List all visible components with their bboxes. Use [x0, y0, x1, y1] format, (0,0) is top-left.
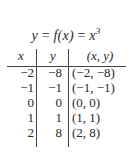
table-row: 1 1 (1, 1) — [10, 110, 128, 125]
table-row: −2 −8 (−2, −8) — [10, 65, 128, 80]
title-equals-2: = — [74, 28, 90, 43]
header-y: y — [40, 47, 66, 64]
cell-y: −8 — [40, 65, 62, 80]
table-header-row: x y (x, y) — [10, 47, 128, 65]
header-pair: (x, y) — [72, 47, 128, 64]
title-equals-1: = — [38, 28, 54, 43]
cell-y: 0 — [40, 95, 62, 110]
cell-y: 8 — [40, 125, 62, 140]
cell-x: 0 — [10, 95, 34, 110]
cell-x: 1 — [10, 110, 34, 125]
cell-y: 1 — [40, 110, 62, 125]
cell-x: −2 — [10, 65, 34, 80]
cell-x: 2 — [10, 125, 34, 140]
title-function: f(x) — [54, 28, 74, 43]
table-row: 0 0 (0, 0) — [10, 95, 128, 110]
cell-pair: (0, 0) — [72, 95, 132, 110]
values-table: x y (x, y) −2 −8 (−2, −8) −1 −1 (−1, −1)… — [10, 47, 128, 140]
function-title: y = f(x) = x3 — [0, 26, 132, 44]
cell-pair: (−2, −8) — [72, 65, 132, 80]
table-row: −1 −1 (−1, −1) — [10, 80, 128, 95]
title-exponent: 3 — [96, 26, 101, 36]
header-x: x — [10, 47, 32, 64]
cell-pair: (2, 8) — [72, 125, 132, 140]
cell-pair: (−1, −1) — [72, 80, 132, 95]
cell-x: −1 — [10, 80, 34, 95]
cell-y: −1 — [40, 80, 62, 95]
cell-pair: (1, 1) — [72, 110, 132, 125]
table-row: 2 8 (2, 8) — [10, 125, 128, 140]
